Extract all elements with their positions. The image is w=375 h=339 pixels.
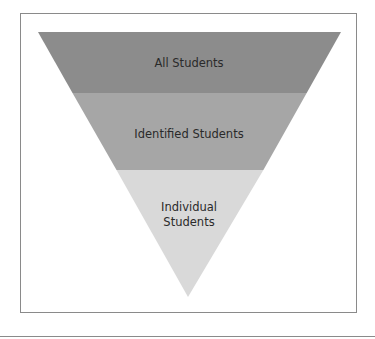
inverted-pyramid xyxy=(0,0,375,339)
bottom-divider xyxy=(0,336,375,337)
label-all-students: All Students xyxy=(154,56,223,71)
label-individual-line2: Students xyxy=(161,215,217,230)
label-individual-line1: Individual xyxy=(161,200,217,215)
label-individual-students: Individual Students xyxy=(161,200,217,230)
pyramid-level-individual-students xyxy=(117,170,264,297)
label-identified-students: Identified Students xyxy=(134,127,243,142)
